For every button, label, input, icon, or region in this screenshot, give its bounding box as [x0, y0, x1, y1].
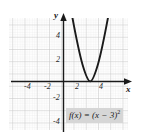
equation-rhs: 3): [107, 110, 117, 120]
y-tick-label-4: 4: [56, 32, 60, 40]
x-tick-label-4: 4: [99, 83, 103, 91]
x-tick-label--4: -4: [24, 83, 31, 91]
parabola-figure: -4 -2 2 4 4 2 -2 -4 x y f(x) = (x − 3)2: [0, 0, 141, 140]
x-tick-label--2: -2: [44, 83, 51, 91]
y-tick-label--4: -4: [53, 118, 60, 126]
x-axis-label: x: [126, 85, 131, 94]
equation-exponent: 2: [117, 109, 120, 115]
y-tick-label-2: 2: [56, 56, 60, 64]
equation-lhs: f(x) = (x: [69, 110, 101, 120]
y-tick-label--2: -2: [53, 94, 60, 102]
equation-label: f(x) = (x − 3)2: [66, 108, 123, 123]
x-tick-label-2: 2: [75, 83, 79, 91]
y-axis-label: y: [54, 11, 58, 20]
